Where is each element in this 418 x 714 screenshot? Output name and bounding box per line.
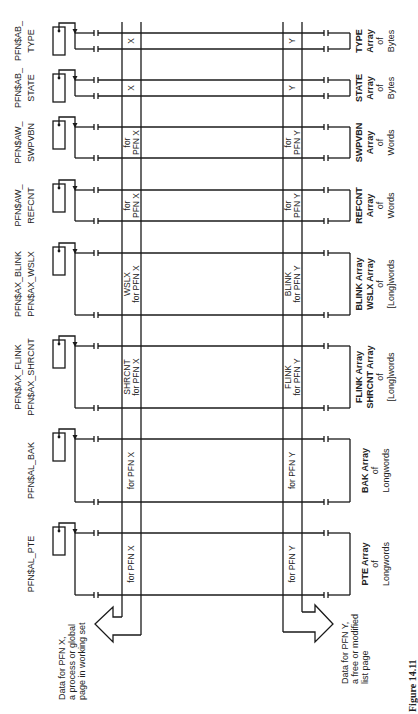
pfn-y-arrow bbox=[283, 605, 333, 642]
entry-x-state: X bbox=[126, 85, 136, 91]
svg-text:SHRCNT Array: SHRCNT Array bbox=[365, 345, 375, 408]
entry-y-bak: for PFN Y bbox=[287, 452, 297, 489]
svg-text:Data for PFN Y,: Data for PFN Y, bbox=[340, 622, 350, 684]
svg-text:page in working set: page in working set bbox=[77, 622, 87, 700]
svg-text:SWPVBN: SWPVBN bbox=[354, 123, 364, 163]
svg-text:Longwords: Longwords bbox=[381, 448, 391, 493]
svg-text:Array: Array bbox=[365, 29, 375, 53]
svg-text:a free or modified: a free or modified bbox=[350, 614, 360, 684]
svg-text:a process or global: a process or global bbox=[67, 624, 77, 700]
svg-text:for PFN X: for PFN X bbox=[131, 265, 141, 303]
svg-text:PFN$AL_BAK: PFN$AL_BAK bbox=[26, 442, 36, 499]
pointer-label-type: PFN$AB_TYPE bbox=[13, 20, 36, 61]
svg-text:STATE: STATE bbox=[26, 74, 36, 102]
figure-caption-text: Figure 14.11 bbox=[407, 659, 418, 712]
svg-text:PFN$AW_: PFN$AW_ bbox=[13, 183, 23, 226]
pointer-label-flink: PFN$AX_FLINKPFN$AX_SHRCNT bbox=[13, 338, 36, 416]
svg-text:PTE Array: PTE Array bbox=[360, 542, 370, 585]
svg-text:Array: Array bbox=[365, 131, 375, 155]
svg-text:for PFN Y: for PFN Y bbox=[292, 358, 302, 395]
svg-text:for PFN Y: for PFN Y bbox=[287, 545, 297, 582]
svg-text:PFN X: PFN X bbox=[131, 130, 141, 155]
entry-y-refcnt: forPFN Y bbox=[283, 193, 302, 218]
svg-text:of: of bbox=[375, 201, 385, 209]
entry-y-pte: for PFN Y bbox=[287, 545, 297, 582]
svg-text:[Long]words: [Long]words bbox=[386, 259, 396, 309]
array-pte bbox=[53, 523, 350, 598]
entry-x-blink: WSLXfor PFN X bbox=[122, 265, 141, 303]
entry-x-type: X bbox=[126, 38, 136, 44]
array-flink bbox=[53, 336, 350, 411]
svg-text:PFN$AB_: PFN$AB_ bbox=[13, 67, 23, 108]
svg-text:BLINK Array: BLINK Array bbox=[354, 257, 364, 310]
pointer-label-state: PFN$AB_STATE bbox=[13, 67, 36, 108]
svg-text:Y: Y bbox=[287, 38, 297, 44]
entry-x-flink: SHRCNTfor PFN X bbox=[122, 358, 141, 396]
array-state bbox=[53, 70, 350, 102]
svg-text:Bytes: Bytes bbox=[386, 76, 396, 99]
pointer-label-pte: PFN$AL_PTE bbox=[26, 536, 36, 593]
entry-y-swpvbn: forPFN Y bbox=[283, 130, 302, 155]
array-bak bbox=[53, 429, 350, 505]
svg-text:REFCNT: REFCNT bbox=[26, 187, 36, 224]
entry-y-blink: BLINKfor PFN Y bbox=[283, 265, 302, 302]
entry-y-type: Y bbox=[287, 38, 297, 44]
svg-text:of: of bbox=[375, 280, 385, 288]
array-label-type: TYPEArrayofBytes bbox=[354, 29, 396, 53]
svg-text:BAK Array: BAK Array bbox=[360, 448, 370, 493]
array-label-refcnt: REFCNTArrayofWords bbox=[354, 187, 396, 224]
array-label-blink: BLINK ArrayWSLX Arrayof[Long]words bbox=[354, 257, 396, 310]
svg-text:Y: Y bbox=[287, 85, 297, 91]
svg-text:Words: Words bbox=[386, 129, 396, 155]
array-label-state: STATEArrayofBytes bbox=[354, 74, 396, 102]
array-blink bbox=[53, 243, 350, 318]
svg-text:for PFN Y: for PFN Y bbox=[292, 265, 302, 302]
entry-x-pte: for PFN X bbox=[126, 545, 136, 583]
callout-pfn-y: Data for PFN Y,a free or modifiedlist pa… bbox=[340, 614, 370, 684]
pointer-label-swpvbn: PFN$AW_SWPVBN bbox=[13, 120, 36, 163]
entry-x-refcnt: forPFN X bbox=[122, 193, 141, 218]
svg-text:of: of bbox=[375, 37, 385, 45]
pointer-label-refcnt: PFN$AW_REFCNT bbox=[13, 183, 36, 226]
svg-text:PFN$AX_WSLX: PFN$AX_WSLX bbox=[26, 251, 36, 317]
svg-text:for PFN X: for PFN X bbox=[131, 358, 141, 396]
svg-text:Bytes: Bytes bbox=[386, 29, 396, 52]
svg-text:PFN$AX_SHRCNT: PFN$AX_SHRCNT bbox=[26, 338, 36, 416]
array-label-flink: FLINK ArraySHRCNT Arrayof[Long]words bbox=[354, 345, 396, 408]
svg-text:TYPE: TYPE bbox=[354, 29, 364, 53]
svg-text:of: of bbox=[375, 138, 385, 146]
svg-text:FLINK Array: FLINK Array bbox=[354, 351, 364, 403]
entry-y-state: Y bbox=[287, 85, 297, 91]
svg-text:PFN$AX_FLINK: PFN$AX_FLINK bbox=[13, 344, 23, 410]
pfn-x-arrow bbox=[95, 607, 141, 642]
svg-text:of: of bbox=[375, 84, 385, 92]
svg-text:Words: Words bbox=[386, 192, 396, 218]
svg-text:PFN$AX_BLINK: PFN$AX_BLINK bbox=[13, 251, 23, 317]
array-swpvbn bbox=[53, 117, 350, 161]
svg-text:PFN X: PFN X bbox=[131, 193, 141, 218]
svg-text:X: X bbox=[126, 85, 136, 91]
svg-text:[Long]words: [Long]words bbox=[386, 352, 396, 402]
array-label-bak: BAK ArrayofLongwords bbox=[360, 448, 391, 493]
entry-y-flink: FLINKfor PFN Y bbox=[283, 358, 302, 395]
entry-x-swpvbn: forPFN X bbox=[122, 130, 141, 155]
svg-text:of: of bbox=[370, 560, 380, 568]
svg-text:TYPE: TYPE bbox=[26, 29, 36, 53]
svg-text:WSLX Array: WSLX Array bbox=[365, 258, 375, 310]
svg-text:PFN$AB_: PFN$AB_ bbox=[13, 20, 23, 61]
svg-text:REFCNT: REFCNT bbox=[354, 187, 364, 224]
svg-text:Longwords: Longwords bbox=[381, 541, 391, 586]
svg-text:PFN$AW_: PFN$AW_ bbox=[13, 120, 23, 163]
array-type bbox=[53, 23, 350, 55]
pointer-label-blink: PFN$AX_BLINKPFN$AX_WSLX bbox=[13, 251, 36, 317]
svg-text:for PFN Y: for PFN Y bbox=[287, 452, 297, 489]
pfn-database-diagram: PFN$AB_TYPEXYTYPEArrayofBytesPFN$AB_STAT… bbox=[0, 0, 418, 714]
svg-text:Array: Array bbox=[365, 76, 375, 100]
svg-text:for PFN X: for PFN X bbox=[126, 452, 136, 490]
svg-text:SWPVBN: SWPVBN bbox=[26, 123, 36, 162]
svg-text:Data for PFN X,: Data for PFN X, bbox=[57, 636, 67, 700]
array-label-pte: PTE ArrayofLongwords bbox=[360, 541, 391, 586]
svg-text:of: of bbox=[370, 466, 380, 474]
svg-text:PFN Y: PFN Y bbox=[292, 193, 302, 218]
callout-pfn-x: Data for PFN X,a process or globalpage i… bbox=[57, 622, 87, 700]
